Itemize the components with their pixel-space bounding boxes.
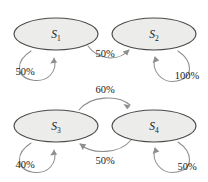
- state-node-s4[interactable]: S4: [112, 110, 196, 142]
- state-node-s1[interactable]: S1: [14, 18, 98, 50]
- transition-s3-to-s3-label: 40%: [15, 159, 35, 170]
- state-node-s3-subscript: 3: [57, 126, 61, 135]
- transition-s1-to-s1[interactable]: 50%: [15, 51, 57, 80]
- state-node-s2[interactable]: S2: [112, 18, 196, 50]
- state-diagram: 50% 50% 100% 60% 50%: [0, 0, 208, 182]
- transition-s4-to-s4-arrowhead: [153, 148, 160, 154]
- transition-s1-to-s2[interactable]: 50%: [88, 46, 130, 59]
- transition-s2-to-s2-label: 100%: [175, 70, 200, 81]
- transition-s2-to-s2-arrowhead: [153, 57, 160, 63]
- transition-s4-to-s3[interactable]: 50%: [80, 140, 132, 166]
- transition-s3-to-s3-arrowhead: [50, 150, 57, 156]
- state-node-s2-subscript: 2: [155, 34, 159, 43]
- transition-s3-to-s3[interactable]: 40%: [15, 143, 57, 172]
- transition-s2-to-s2[interactable]: 100%: [153, 51, 200, 81]
- transition-s3-to-s4-label: 60%: [95, 84, 115, 95]
- transition-s3-to-s4[interactable]: 60%: [79, 84, 131, 110]
- transition-s4-to-s3-arrowhead: [80, 144, 87, 150]
- transition-s1-to-s1-label: 50%: [15, 66, 35, 77]
- transition-s4-to-s3-label: 50%: [95, 155, 115, 166]
- transition-s4-to-s3-path: [80, 140, 131, 151]
- state-node-s1-subscript: 1: [57, 34, 61, 43]
- state-diagram-canvas: 50% 50% 100% 60% 50%: [0, 0, 208, 182]
- transition-s1-to-s2-label: 50%: [95, 48, 115, 59]
- state-node-s3[interactable]: S3: [14, 110, 98, 142]
- state-node-s4-subscript: 4: [155, 126, 159, 135]
- transition-s4-to-s4[interactable]: 50%: [153, 142, 197, 172]
- transition-s1-to-s1-arrowhead: [50, 58, 57, 64]
- transition-s4-to-s4-label: 50%: [177, 161, 197, 172]
- transition-s3-to-s4-path: [79, 98, 130, 110]
